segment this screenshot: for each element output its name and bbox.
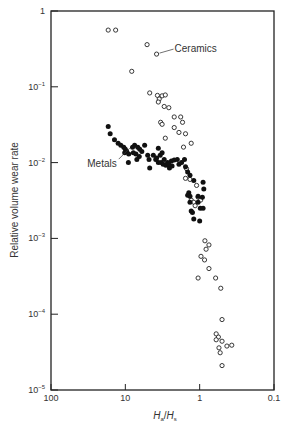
metal-point [130, 145, 135, 150]
ceramic-point [220, 339, 224, 343]
ceramic-point [183, 132, 187, 136]
y-tick-label: 10−1 [28, 81, 46, 92]
ceramic-point [154, 52, 158, 56]
metal-point [187, 173, 192, 178]
y-tick-label: 1 [40, 6, 45, 16]
ceramic-point [130, 69, 134, 73]
ceramic-point [180, 120, 184, 124]
metal-point [112, 137, 117, 142]
metal-point [108, 131, 113, 136]
metal-point [197, 218, 202, 223]
data-points [106, 28, 234, 368]
plot-border [51, 11, 274, 390]
ceramic-point [214, 338, 218, 342]
ceramic-point [218, 351, 222, 355]
series-metals [106, 124, 207, 223]
metal-point [189, 208, 194, 213]
plot-frame [51, 11, 274, 390]
metal-point [201, 206, 206, 211]
ceramic-point [207, 266, 211, 270]
metal-point [196, 194, 201, 199]
ceramic-point [214, 276, 218, 280]
ceramics-leader-line [160, 49, 174, 53]
metal-point [191, 178, 196, 183]
ceramic-point [148, 91, 152, 95]
ceramic-point [179, 115, 183, 119]
ceramic-point [145, 43, 149, 47]
metal-point [166, 162, 171, 167]
ceramic-point [163, 93, 167, 97]
ceramic-point [225, 344, 229, 348]
metal-point [183, 164, 188, 169]
ceramic-point [202, 258, 206, 262]
ceramic-point [106, 28, 110, 32]
metal-point [134, 157, 139, 162]
ceramic-point [156, 100, 160, 104]
ceramic-point [220, 363, 224, 367]
ceramic-point [214, 332, 218, 336]
metal-point [131, 150, 136, 155]
y-axis-title: Relative volume wear rate [9, 142, 20, 258]
y-tick-label: 10−3 [28, 232, 46, 243]
ceramic-point [230, 343, 234, 347]
x-axis-title: Ha/Hs [153, 410, 177, 422]
ceramic-point [181, 145, 185, 149]
metal-point [156, 146, 161, 151]
series-ceramics [106, 28, 234, 368]
ceramic-point [177, 130, 181, 134]
metal-point [187, 200, 192, 205]
metal-point [126, 151, 131, 156]
metal-point [137, 147, 142, 152]
ceramic-point [196, 276, 200, 280]
scatter-chart: 1001010.1 110−110−210−310−410−5 Ceramics… [0, 0, 288, 428]
metal-point [182, 157, 187, 162]
ceramic-point [162, 104, 166, 108]
ceramic-point [163, 136, 167, 140]
metal-point [201, 186, 206, 191]
metal-point [201, 180, 206, 185]
ceramic-point [172, 115, 176, 119]
ceramic-point [199, 254, 203, 258]
metal-point [160, 150, 165, 155]
ceramic-point [172, 125, 176, 129]
y-axis-ticks: 110−110−210−310−410−5 [28, 6, 58, 395]
annotations: CeramicsMetals [87, 43, 217, 169]
ceramic-point [217, 346, 221, 350]
x-axis-ticks: 1001010.1 [43, 384, 280, 403]
ceramic-point [167, 106, 171, 110]
x-tick-label: 10 [120, 393, 130, 403]
ceramic-point [183, 176, 187, 180]
metal-point [147, 165, 152, 170]
metal-point [200, 195, 205, 200]
ceramic-point [194, 183, 198, 187]
metal-point [142, 143, 147, 148]
x-tick-label: 100 [43, 393, 58, 403]
metal-point [147, 157, 152, 162]
metal-point [106, 124, 111, 129]
metal-point [175, 157, 180, 162]
ceramics-label: Ceramics [175, 43, 217, 54]
metal-point [191, 217, 196, 222]
ceramic-point [160, 122, 164, 126]
y-tick-label: 10−2 [28, 157, 46, 168]
metal-point [187, 194, 192, 199]
ceramic-point [220, 317, 224, 321]
metals-label: Metals [87, 158, 116, 169]
x-tick-label: 0.1 [268, 393, 281, 403]
ceramic-point [114, 28, 118, 32]
ceramic-point [203, 239, 207, 243]
ceramic-point [207, 243, 211, 247]
metal-point [126, 160, 131, 165]
metal-point [196, 200, 201, 205]
ceramic-point [204, 247, 208, 251]
ceramic-point [219, 286, 223, 290]
y-tick-label: 10−4 [28, 308, 46, 319]
x-tick-label: 1 [197, 393, 202, 403]
ceramic-point [189, 141, 193, 145]
